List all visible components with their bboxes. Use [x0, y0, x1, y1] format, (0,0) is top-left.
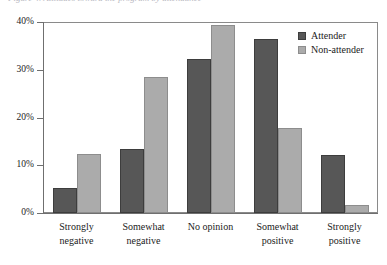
y-axis-tick-20 — [37, 118, 43, 119]
y-axis-label-wrap: 20% — [0, 113, 34, 123]
y-axis-label-wrap: 30% — [0, 65, 34, 75]
chart-figure: Figure 4. Attitudes toward the program b… — [0, 0, 387, 265]
x-axis-category-label-somewhat-positive: Somewhat positive — [244, 220, 311, 247]
x-axis-category-label-somewhat-negative: Somewhat negative — [110, 220, 177, 247]
legend-swatch-icon-non-attender — [298, 46, 306, 54]
y-axis-label: 20% — [0, 113, 34, 123]
y-axis-tick-40 — [37, 22, 43, 23]
y-axis-label: 10% — [0, 160, 34, 170]
legend-label-attender: Attender — [311, 30, 346, 41]
x-axis-category-label-no-opinion: No opinion — [177, 220, 244, 234]
y-axis-tick-30 — [37, 70, 43, 71]
clipped-caption-text: Figure 4. Attitudes toward the program b… — [8, 0, 308, 5]
y-axis-label: 0% — [0, 208, 34, 218]
y-axis-label: 30% — [0, 65, 34, 75]
y-axis-tick-10 — [37, 165, 43, 166]
x-axis-line — [43, 213, 378, 214]
y-axis-label-wrap: 0% — [0, 208, 34, 218]
y-axis-label: 40% — [0, 17, 34, 27]
legend-label-non-attender: Non-attender — [311, 44, 364, 55]
y-axis-label-wrap: 40% — [0, 17, 34, 27]
y-axis-tick-0 — [37, 213, 43, 214]
legend-item-attender: Attender — [298, 29, 364, 42]
y-axis-line — [43, 22, 44, 214]
x-axis-category-label-strongly-negative: Strongly negative — [43, 220, 110, 247]
x-axis-category-label-strongly-positive: Strongly positive — [311, 220, 378, 247]
legend-swatch-icon-attender — [298, 32, 306, 40]
chart-legend: Attender Non-attender — [298, 29, 364, 57]
legend-item-non-attender: Non-attender — [298, 43, 364, 56]
y-axis-label-wrap: 10% — [0, 160, 34, 170]
